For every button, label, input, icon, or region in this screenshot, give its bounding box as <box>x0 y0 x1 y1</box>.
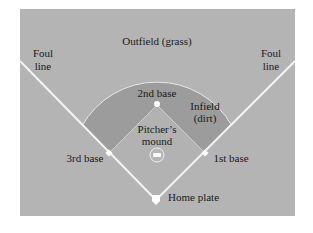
label-foul-line-left-2: line <box>35 60 52 72</box>
label-foul-line-right-2: line <box>263 60 280 72</box>
baseball-field-diagram: Outfield (grass) Foul line Foul line 2nd… <box>0 0 313 233</box>
label-first-base: 1st base <box>213 152 248 164</box>
label-foul-line-left-1: Foul <box>33 47 53 59</box>
label-infield-1: Infield <box>190 100 220 112</box>
label-infield-2: (dirt) <box>194 112 217 125</box>
label-pitchers-mound-2: mound <box>142 135 173 147</box>
pitchers-rubber <box>153 153 161 157</box>
label-foul-line-right-1: Foul <box>261 47 281 59</box>
label-pitchers-mound-1: Pitcher’s <box>138 123 177 135</box>
label-home-plate: Home plate <box>168 191 219 203</box>
label-outfield: Outfield (grass) <box>122 35 192 48</box>
label-third-base: 3rd base <box>67 152 104 164</box>
second-base-marker <box>154 101 160 107</box>
label-second-base: 2nd base <box>138 87 177 99</box>
